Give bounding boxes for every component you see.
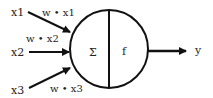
weight-label-x2: w • x2	[26, 33, 59, 44]
input-label-x2: x2	[11, 46, 24, 59]
input-label-x3: x3	[11, 84, 24, 97]
output-label-y: y	[194, 44, 202, 57]
weight-label-x3: w • x3	[50, 83, 83, 94]
input-label-x1: x1	[11, 6, 24, 19]
neuron-diagram: x1 w • x1 w • x2 x2 x3 w • x3 Σ f y	[0, 0, 213, 98]
sum-symbol: Σ	[89, 46, 97, 59]
weight-label-x1: w • x1	[42, 7, 75, 18]
